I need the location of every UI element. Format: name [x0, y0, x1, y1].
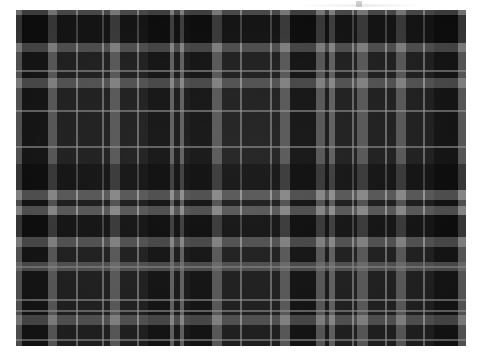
weft-stripe — [16, 281, 466, 315]
page-canvas — [0, 0, 486, 358]
weft-stripe — [16, 339, 466, 341]
weft-stripe — [16, 110, 466, 112]
weft-stripe — [16, 206, 466, 215]
weft-stripe — [16, 190, 466, 200]
weft-stripe — [16, 237, 466, 247]
weft-stripe — [16, 200, 466, 206]
scan-artifact-mark — [356, 1, 362, 7]
weft-stripe — [16, 78, 466, 88]
weft-stripe — [16, 126, 466, 164]
weft-stripe — [16, 15, 466, 43]
weft-stripe — [16, 88, 466, 126]
weft-stripe — [16, 247, 466, 281]
weft-stripe — [16, 164, 466, 190]
weft-stripe — [16, 146, 466, 148]
weft-stripe — [16, 43, 466, 52]
weft-stripe — [16, 315, 466, 325]
weft-stripe — [16, 325, 466, 346]
weft-stripe — [16, 299, 466, 301]
weft-stripe — [16, 262, 466, 271]
weft-stripe — [16, 52, 466, 78]
tartan-swatch — [16, 10, 466, 346]
weft-stripe — [16, 215, 466, 237]
weft-stripe — [16, 10, 466, 15]
weft-stripe — [16, 266, 466, 268]
weft-stripe — [16, 70, 466, 72]
weft-threads — [16, 10, 466, 346]
weft-stripe — [16, 310, 466, 312]
